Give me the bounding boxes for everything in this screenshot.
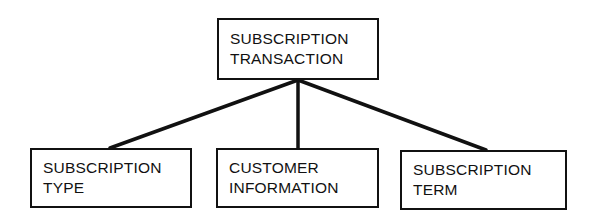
node-label-line-1: SUBSCRIPTION	[413, 160, 532, 180]
node-subscription-type[interactable]: SUBSCRIPTION TYPE	[30, 148, 192, 208]
node-label-line-2: INFORMATION	[229, 178, 339, 198]
node-label-line-1: SUBSCRIPTION	[43, 158, 162, 178]
diagram-canvas: SUBSCRIPTION TRANSACTION SUBSCRIPTION TY…	[0, 0, 598, 223]
node-label-line-2: TRANSACTION	[230, 49, 343, 69]
edge-root-to-subscription-term	[298, 80, 486, 150]
node-label-line-2: TERM	[413, 180, 458, 200]
edge-root-to-subscription-type	[110, 80, 298, 148]
node-label-line-1: SUBSCRIPTION	[230, 29, 349, 49]
node-subscription-term[interactable]: SUBSCRIPTION TERM	[400, 150, 567, 210]
node-subscription-transaction[interactable]: SUBSCRIPTION TRANSACTION	[217, 18, 379, 80]
node-label-line-1: CUSTOMER	[229, 158, 319, 178]
node-label-line-2: TYPE	[43, 178, 84, 198]
node-customer-information[interactable]: CUSTOMER INFORMATION	[216, 148, 379, 208]
